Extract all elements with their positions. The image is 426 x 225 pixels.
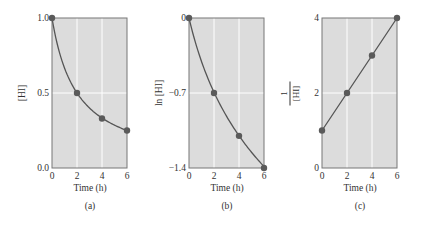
data-point [99,115,105,121]
x-tick-label: 4 [366,171,378,181]
data-point [49,15,55,21]
data-point [74,90,80,96]
data-point [344,90,350,96]
x-tick-label: 2 [71,171,83,181]
x-tick-label: 2 [208,171,220,181]
data-point [186,15,192,21]
x-axis-label: Time (h) [60,183,120,193]
y-axis-label-numerator: 1 [280,82,291,106]
chart-panel-a: 1.0 0.5 0.0 0 2 4 6 Time (h) [HI] (a) [0,0,140,225]
data-point [236,133,242,139]
y-tick-label: −0.7 [162,88,186,98]
y-tick-label: 4 [295,13,319,23]
panel-label: (c) [345,201,375,211]
y-axis-label-denominator: [HI] [291,79,301,109]
data-point [369,52,375,58]
data-point [319,127,325,133]
x-tick-label: 2 [341,171,353,181]
data-point [394,15,400,21]
panel-label: (a) [75,201,105,211]
panel-label: (b) [212,201,242,211]
y-axis-label: [HI] [17,68,27,118]
x-tick-label: 6 [121,171,133,181]
data-point [211,90,217,96]
data-point [124,127,130,133]
chart-panel-b: 0 −0.7 −1.4 0 2 4 6 Time (h) ln [HI] (b) [137,0,277,225]
y-tick-label: 0 [162,13,186,23]
y-tick-label: 0.5 [25,88,49,98]
y-tick-label: 1.0 [25,13,49,23]
x-tick-label: 4 [233,171,245,181]
x-axis-label: Time (h) [330,183,390,193]
x-tick-label: 0 [316,171,328,181]
x-tick-label: 4 [96,171,108,181]
x-axis-label: Time (h) [197,183,257,193]
x-tick-label: 0 [46,171,58,181]
y-axis-label: 1 [HI] [280,79,301,109]
chart-panel-c: 4 2 0 0 2 4 6 Time (h) 1 [HI] (c) [270,0,420,225]
x-tick-label: 6 [258,171,270,181]
x-tick-label: 0 [183,171,195,181]
y-axis-label: ln [HI] [154,68,164,118]
x-tick-label: 6 [391,171,403,181]
